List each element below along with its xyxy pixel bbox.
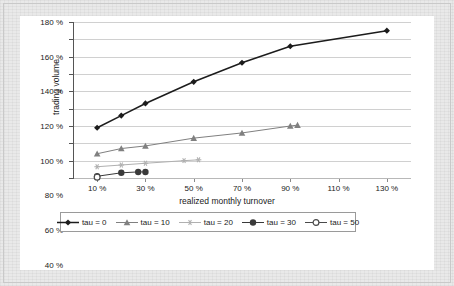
data-point-circle-filled: [250, 219, 256, 225]
legend-marker-circle-filled-icon: [242, 217, 264, 228]
y-axis-label: 40 %: [45, 260, 63, 269]
y-axis-label: 120 %: [40, 122, 63, 131]
x-tick-110: [339, 179, 340, 182]
data-point-diamond: [65, 219, 71, 225]
legend-item-3[interactable]: tau = 30: [242, 217, 296, 228]
legend-label: tau = 30: [267, 218, 296, 227]
data-point-diamond: [384, 28, 390, 34]
data-point-circle-filled: [135, 169, 141, 175]
data-point-asterisk: [181, 158, 187, 163]
x-axis-label: 30 %: [136, 184, 154, 193]
legend-item-1[interactable]: tau = 10: [116, 217, 170, 228]
x-tick-70: [242, 179, 243, 182]
legend-label: tau = 10: [141, 218, 170, 227]
y-axis-label: 140 %: [40, 87, 63, 96]
data-point-diamond: [191, 79, 197, 85]
data-point-circle-filled: [142, 169, 148, 175]
x-axis-label: 110 %: [328, 184, 350, 193]
plot-area: 0 %20 %40 %60 %80 %100 %120 %140 %160 %1…: [73, 22, 411, 178]
legend-label: tau = 50: [330, 218, 359, 227]
data-point-triangle: [294, 122, 301, 128]
data-point-asterisk: [94, 164, 100, 169]
x-tick-30: [145, 179, 146, 182]
data-point-circle-open: [313, 219, 319, 225]
chart-legend: tau = 0tau = 10tau = 20tau = 30tau = 50: [60, 212, 356, 232]
data-point-circle-open: [94, 174, 100, 180]
x-axis-label: 50 %: [185, 184, 203, 193]
data-point-diamond: [287, 43, 293, 49]
series-line: [97, 31, 387, 128]
series-0: [94, 28, 390, 131]
legend-item-0[interactable]: tau = 0: [57, 217, 107, 228]
legend-marker-triangle-icon: [116, 217, 138, 228]
x-axis-label: 130 %: [376, 184, 399, 193]
chart-figure: trading volume realized monthly turnover…: [0, 0, 454, 286]
x-axis-label: 10 %: [88, 184, 106, 193]
series-2: [94, 157, 201, 169]
x-tick-130: [387, 179, 388, 182]
y-axis-label: 80 %: [45, 191, 63, 200]
series-3: [94, 169, 149, 180]
data-point-diamond: [142, 100, 148, 106]
x-axis-label: 90 %: [281, 184, 299, 193]
series-plot: [73, 22, 411, 179]
data-point-asterisk: [187, 220, 193, 225]
legend-marker-diamond-icon: [57, 217, 79, 228]
legend-item-4[interactable]: tau = 50: [305, 217, 359, 228]
y-axis-label: 100 %: [40, 156, 63, 165]
data-point-asterisk: [118, 163, 124, 168]
data-point-diamond: [94, 125, 100, 131]
x-tick-50: [194, 179, 195, 182]
series-line: [97, 125, 297, 154]
series-4: [94, 174, 100, 180]
legend-label: tau = 20: [204, 218, 233, 227]
legend-item-2[interactable]: tau = 20: [179, 217, 233, 228]
data-point-asterisk: [196, 157, 202, 162]
x-axis-label: 70 %: [233, 184, 251, 193]
x-axis-title: realized monthly turnover: [20, 196, 434, 206]
data-point-diamond: [239, 60, 245, 66]
data-point-circle-filled: [118, 170, 124, 176]
y-axis-label: 180 %: [40, 18, 63, 27]
legend-label: tau = 0: [82, 218, 107, 227]
series-1: [94, 122, 301, 157]
y-axis-label: 160 %: [40, 52, 63, 61]
x-tick-90: [290, 179, 291, 182]
legend-marker-circle-open-icon: [305, 217, 327, 228]
data-point-asterisk: [143, 161, 149, 166]
legend-marker-asterisk-icon: [179, 217, 201, 228]
data-point-diamond: [118, 113, 124, 119]
